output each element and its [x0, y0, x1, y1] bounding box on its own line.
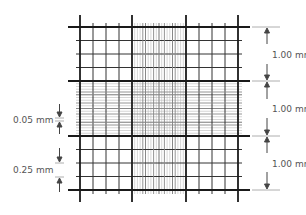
counting-grid: [68, 15, 250, 202]
dimension-label-fine: 0.05 mm: [13, 115, 53, 125]
dimension-label-medium: 0.25 mm: [13, 165, 53, 175]
hemocytometer-grid-diagram: 1.00 mm 1.00 mm 1.00 mm 0.05 mm 0.25 mm: [0, 0, 306, 215]
dimension-label-bottom: 1.00 mm: [272, 159, 306, 169]
left-dimensions: [55, 104, 64, 192]
dimension-label-middle: 1.00 mm: [272, 104, 306, 114]
dimension-label-top: 1.00 mm: [272, 50, 306, 60]
